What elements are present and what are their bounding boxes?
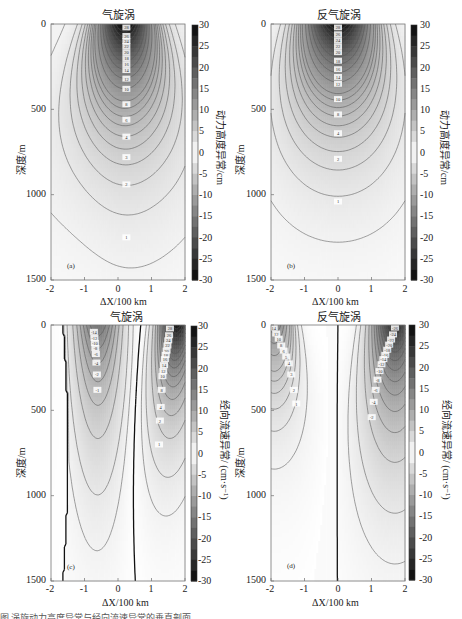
- panel-b-xtick: 1: [361, 283, 381, 294]
- colorbar-tick: -25: [420, 253, 433, 264]
- panel-c-xtick: 0: [108, 583, 128, 594]
- svg-text:22: 22: [124, 44, 129, 49]
- contour-label: -10: [91, 340, 99, 346]
- panel-b-xtick: 0: [328, 283, 348, 294]
- colorbar-tick: 30: [420, 19, 430, 30]
- contour-label: 3: [287, 371, 295, 377]
- panel-b-ylabel: 深度/m: [232, 144, 247, 175]
- svg-text:2: 2: [159, 419, 161, 424]
- colorbar-tick: -5: [198, 469, 206, 480]
- contour-label: -26: [391, 325, 399, 331]
- svg-text:10: 10: [124, 87, 129, 92]
- svg-text:1: 1: [337, 199, 339, 204]
- contour-label: -4: [92, 360, 100, 366]
- colorbar-tick: 25: [419, 340, 429, 351]
- colorbar-tick: -15: [199, 210, 212, 221]
- svg-text:2: 2: [125, 182, 127, 187]
- contour-label: 1: [292, 401, 300, 407]
- panel-d-title: 反气旋涡: [314, 308, 364, 324]
- figure-caption: 图 涡旋动力高度异常与经向流速异常的垂直剖面: [0, 611, 462, 619]
- colorbar-tick: -15: [420, 210, 433, 221]
- colorbar-tick: -5: [199, 168, 207, 179]
- contour-label: 10: [158, 373, 166, 379]
- contour-label: -14: [379, 356, 387, 362]
- contour-line: [337, 325, 338, 581]
- colorbar-tick: 25: [199, 40, 209, 51]
- colorbar-tick: -30: [198, 575, 211, 586]
- contour-label: 14: [122, 67, 130, 73]
- contour-label: 14: [160, 362, 168, 368]
- panel-d-colorbar: [409, 325, 415, 580]
- colorbar-tick: -20: [198, 533, 211, 544]
- contour-label: 1: [122, 234, 130, 240]
- svg-text:1: 1: [295, 402, 297, 407]
- colorbar-tick: 15: [419, 383, 429, 394]
- contour-label: 4: [334, 130, 342, 136]
- contour-label: -14: [90, 329, 98, 335]
- colorbar-tick: -10: [198, 490, 211, 501]
- svg-text:18: 18: [336, 59, 341, 64]
- contour-label: -18: [383, 347, 391, 353]
- panel-a-xtick: 0: [108, 283, 128, 294]
- colorbar-tick: 25: [420, 40, 430, 51]
- contour-label: 26: [334, 31, 342, 37]
- contour-label: 16: [161, 356, 169, 362]
- svg-text:-2: -2: [370, 415, 374, 420]
- contour-label: 18: [122, 55, 130, 61]
- panel-a-xtick: -2: [40, 283, 60, 294]
- colorbar-tick: -25: [419, 553, 432, 564]
- panel-b-ytick-1000: 1000: [236, 188, 266, 199]
- panel-d-xtick: 0: [328, 583, 348, 594]
- panel-c-ytick-1000: 1000: [16, 489, 46, 500]
- contour-label: 4: [157, 404, 165, 410]
- contour-label: 20: [122, 49, 130, 55]
- panel-b-xlabel: ΔX/100 km: [312, 296, 359, 307]
- svg-text:24: 24: [336, 38, 341, 43]
- svg-text:-2: -2: [95, 372, 99, 377]
- colorbar-tick: -15: [419, 510, 432, 521]
- contour-label: 2: [156, 418, 164, 424]
- colorbar-tick: -10: [419, 489, 432, 500]
- svg-text:1: 1: [158, 442, 160, 447]
- contour-label: 18: [334, 58, 342, 64]
- contour-label: -2: [368, 414, 376, 420]
- panel-b-letter: (b): [287, 262, 295, 270]
- colorbar-tick: 20: [420, 62, 430, 73]
- svg-text:16: 16: [163, 357, 168, 362]
- svg-text:20: 20: [124, 50, 129, 55]
- panel-b-xtick: 2: [395, 283, 415, 294]
- panel-b-ytick-500: 500: [236, 103, 266, 114]
- svg-text:28: 28: [168, 326, 173, 331]
- svg-text:16: 16: [124, 62, 129, 67]
- panel-a-colorbar: [192, 25, 198, 280]
- colorbar-tick: 20: [198, 363, 208, 374]
- colorbar-tick: -5: [420, 168, 428, 179]
- panel-a-xlabel: ΔX/100 km: [100, 296, 147, 307]
- contour-label: 3: [122, 154, 130, 160]
- svg-text:2: 2: [293, 388, 295, 393]
- colorbar-tick: 30: [199, 19, 209, 30]
- contour-label: 12: [334, 81, 342, 87]
- panel-c-xlabel: ΔX/100 km: [102, 597, 149, 608]
- panel-c-ytick-500: 500: [16, 404, 46, 415]
- panel-c-colorbar-label: 经向流速异常/ (cm·s⁻¹): [218, 400, 233, 500]
- contour-label: 8: [158, 387, 166, 393]
- contour-label: -8: [374, 377, 382, 383]
- contour-label: -1: [93, 387, 101, 393]
- colorbar-tick: 5: [419, 425, 424, 436]
- contour-label: 28: [166, 325, 174, 331]
- contour-label: 2: [334, 156, 342, 162]
- panel-a-ytick-1000: 1000: [16, 188, 46, 199]
- contour-label: 10: [275, 336, 283, 342]
- panel-a-colorbar-label: 动力高度异常/cm: [214, 110, 229, 185]
- svg-text:10: 10: [276, 337, 281, 342]
- colorbar-tick: 5: [198, 426, 203, 437]
- panel-a-ytick-0: 0: [16, 18, 46, 29]
- colorbar-tick: 10: [199, 104, 209, 115]
- svg-text:22: 22: [336, 44, 341, 49]
- svg-text:-10: -10: [376, 369, 383, 374]
- colorbar-tick: 30: [198, 320, 208, 331]
- svg-text:14: 14: [162, 363, 167, 368]
- colorbar-tick: 15: [199, 83, 209, 94]
- colorbar-tick: -10: [199, 189, 212, 200]
